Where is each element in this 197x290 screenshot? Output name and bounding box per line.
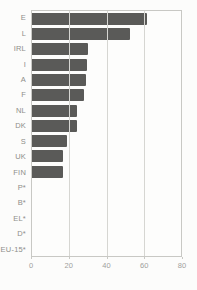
- bar: [32, 43, 88, 55]
- y-tick-label: EL*: [0, 211, 29, 226]
- y-tick-label: DK: [0, 118, 29, 133]
- y-tick-label: S: [0, 134, 29, 149]
- x-tick-label: 60: [140, 261, 148, 270]
- x-tick-mark: [107, 257, 108, 259]
- bar: [32, 28, 130, 40]
- x-tick-label: 40: [102, 261, 110, 270]
- y-tick-label: IRL: [0, 41, 29, 56]
- y-axis-labels: ELIRLIAFNLDKSUKFINP*B*EL*D*EU-15*: [0, 10, 29, 257]
- plot-area: [31, 10, 182, 257]
- y-tick-label: D*: [0, 226, 29, 241]
- y-tick-label: UK: [0, 149, 29, 164]
- x-tick-mark: [31, 257, 32, 259]
- bar: [32, 74, 86, 86]
- x-axis: 020406080: [31, 257, 182, 273]
- y-tick-label: FIN: [0, 164, 29, 179]
- bar: [32, 135, 67, 147]
- y-tick-label: NL: [0, 103, 29, 118]
- bar: [32, 13, 147, 25]
- gridline: [107, 11, 108, 256]
- bar: [32, 105, 77, 117]
- horizontal-bar-chart: ELIRLIAFNLDKSUKFINP*B*EL*D*EU-15* 020406…: [0, 0, 197, 290]
- y-tick-label: F: [0, 87, 29, 102]
- y-tick-label: B*: [0, 195, 29, 210]
- bar: [32, 89, 84, 101]
- gridline: [144, 11, 145, 256]
- y-tick-label: A: [0, 72, 29, 87]
- bar: [32, 59, 87, 71]
- y-tick-label: I: [0, 56, 29, 71]
- y-tick-label: L: [0, 25, 29, 40]
- y-tick-label: EU-15*: [0, 242, 29, 257]
- gridline: [69, 11, 70, 256]
- x-tick-label: 80: [178, 261, 186, 270]
- y-tick-label: E: [0, 10, 29, 25]
- bar: [32, 166, 63, 178]
- x-tick-label: 20: [65, 261, 73, 270]
- bar: [32, 150, 63, 162]
- x-tick-label: 0: [29, 261, 33, 270]
- x-tick-mark: [144, 257, 145, 259]
- x-tick-mark: [182, 257, 183, 259]
- x-tick-mark: [69, 257, 70, 259]
- y-tick-label: P*: [0, 180, 29, 195]
